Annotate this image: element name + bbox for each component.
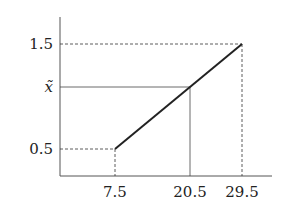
x-tick-29.5: 29.5 — [225, 183, 258, 201]
data-line — [115, 44, 242, 149]
y-tick-0.5: 0.5 — [29, 140, 53, 158]
x-tick-7.5: 7.5 — [103, 183, 127, 201]
y-tick-xtilde: x̃ — [45, 78, 54, 96]
y-tick-1.5: 1.5 — [29, 35, 53, 53]
chart: 1.5 x̃ 0.5 7.5 20.5 29.5 — [0, 0, 290, 205]
x-tick-20.5: 20.5 — [173, 183, 206, 201]
